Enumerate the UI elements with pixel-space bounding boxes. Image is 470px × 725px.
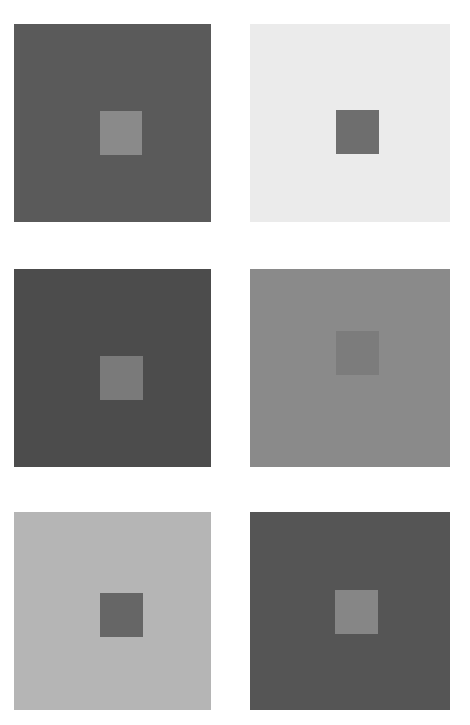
surround-square-bottom-right	[250, 512, 450, 710]
center-patch-middle-left	[100, 356, 143, 400]
center-patch-top-right	[336, 110, 379, 154]
surround-square-top-right	[250, 24, 450, 222]
surround-square-bottom-left	[14, 512, 211, 710]
surround-square-middle-right	[250, 269, 450, 467]
center-patch-bottom-right	[335, 590, 378, 634]
center-patch-bottom-left	[100, 593, 143, 637]
contrast-grid-figure	[0, 0, 470, 725]
center-patch-top-left	[100, 111, 142, 155]
surround-square-middle-left	[14, 269, 211, 467]
surround-square-top-left	[14, 24, 211, 222]
center-patch-middle-right	[336, 331, 379, 375]
